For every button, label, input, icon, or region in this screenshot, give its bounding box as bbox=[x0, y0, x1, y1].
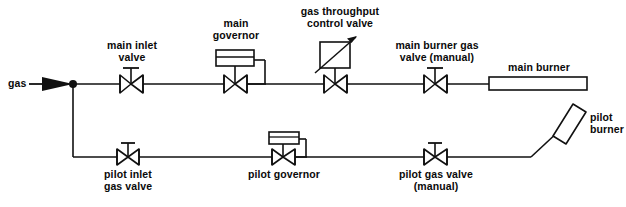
gas-throughput-control-valve-label: gas throughput control valve bbox=[285, 6, 395, 29]
main-burner-label: main burner bbox=[494, 62, 584, 74]
pilot-gas-valve-label: pilot gas valve (manual) bbox=[384, 169, 488, 192]
pilot-gas-valve-symbol bbox=[424, 143, 447, 165]
pilot-governor-symbol bbox=[269, 132, 307, 165]
diagram-canvas: gas main inlet valve main governor gas t… bbox=[0, 0, 626, 207]
main-governor-symbol bbox=[216, 50, 266, 93]
pilot-inlet-gas-valve-label: pilot inlet gas valve bbox=[83, 169, 173, 192]
pilot-burner-body bbox=[553, 104, 586, 144]
main-inlet-valve-symbol bbox=[120, 68, 143, 93]
main-burner-body bbox=[489, 77, 587, 90]
gas-inlet-arrow bbox=[29, 77, 73, 91]
main-burner-gas-valve-symbol bbox=[424, 68, 447, 93]
pilot-governor-label: pilot governor bbox=[234, 169, 334, 181]
main-burner-gas-valve-label: main burner gas valve (manual) bbox=[380, 40, 494, 63]
pilot-inlet-gas-valve-symbol bbox=[117, 143, 139, 165]
main-governor-label: main governor bbox=[192, 18, 280, 41]
pilot-burner-label: pilot burner bbox=[590, 112, 626, 135]
main-inlet-valve-label: main inlet valve bbox=[87, 40, 177, 63]
gas-inlet-label: gas bbox=[8, 78, 26, 90]
pilot-gas-line bbox=[73, 84, 560, 157]
